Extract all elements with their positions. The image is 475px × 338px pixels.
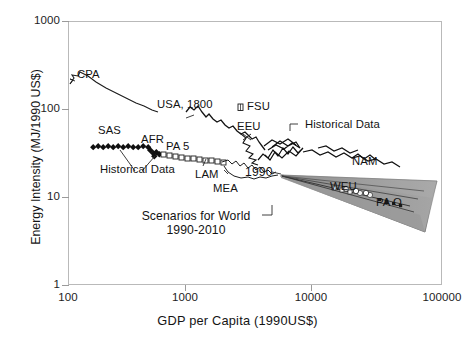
label-eeu: EEU [237, 120, 261, 133]
label-pa5: PA 5 [166, 140, 189, 153]
plot-area [68, 21, 442, 285]
y-tick-label-1: 1 [8, 278, 60, 290]
x-tick-label-100000: 100000 [406, 291, 475, 303]
label-cpa: CPA [77, 68, 100, 81]
y-tick-label-1000: 1000 [8, 14, 60, 26]
label-usa-1800: USA, 1800 [157, 98, 213, 111]
y-axis-title: Energy Intensity (MJ/1990 US$) [29, 42, 43, 272]
y-tick-mark [62, 109, 69, 110]
label-sas: SAS [98, 124, 121, 137]
label-lam: LAM [195, 168, 219, 181]
x-tick-label-1000: 1000 [155, 291, 215, 303]
label-1990: 1990 [245, 165, 273, 179]
label-scenarios-line2: 1990-2010 [128, 223, 264, 237]
label-afr: AFR [141, 133, 164, 146]
label-fsu: FSU [247, 100, 270, 113]
label-historical-data-right: Historical Data [305, 118, 380, 131]
label-nam: NAM [352, 155, 377, 168]
x-tick-label-10000: 10000 [278, 291, 344, 303]
label-pao: PA O [376, 196, 402, 209]
x-axis-title: GDP per Capita (1990US$) [0, 313, 475, 328]
y-tick-mark [62, 285, 69, 286]
label-scenarios-line1: Scenarios for World [128, 209, 264, 223]
chart-figure: 1000 100 10 1 100 1000 10000 100000 Ener… [0, 0, 475, 338]
label-weu: WEU [330, 180, 357, 193]
label-mea: MEA [213, 182, 238, 195]
y-tick-mark [62, 197, 69, 198]
label-historical-data-left: Historical Data [100, 163, 175, 176]
y-tick-mark [62, 21, 69, 22]
x-tick-label-100: 100 [38, 291, 98, 303]
